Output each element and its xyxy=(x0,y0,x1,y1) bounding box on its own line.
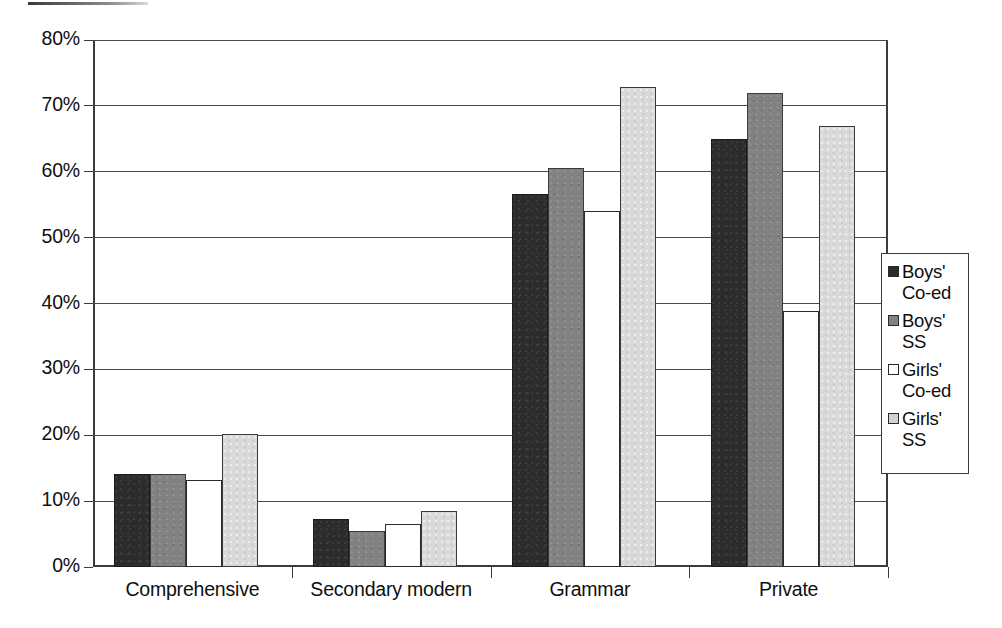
bar xyxy=(711,139,747,567)
gridline xyxy=(93,40,888,41)
bar xyxy=(349,531,385,567)
legend-item[interactable]: Boys' Co-ed xyxy=(888,261,968,303)
x-axis-tick xyxy=(491,567,492,578)
x-axis-category-label: Private xyxy=(649,578,929,601)
y-axis-tick-label: 0% xyxy=(0,554,80,577)
y-axis-tick xyxy=(84,40,93,41)
legend-item[interactable]: Girls' Co-ed xyxy=(888,359,968,401)
legend-item-label: Boys' Co-ed xyxy=(902,261,951,303)
chart-legend: Boys' Co-edBoys' SSGirls' Co-edGirls' SS xyxy=(881,253,969,474)
bar xyxy=(512,194,548,567)
y-axis-tick-label: 30% xyxy=(0,356,80,379)
y-axis-tick xyxy=(84,171,93,172)
y-axis-tick xyxy=(84,435,93,436)
y-axis-tick xyxy=(84,237,93,238)
y-axis-tick xyxy=(84,105,93,106)
bar xyxy=(584,211,620,567)
light-gray-swatch xyxy=(888,413,899,424)
y-axis-tick-label: 60% xyxy=(0,159,80,182)
y-axis-tick xyxy=(84,567,93,568)
y-axis-tick-label: 10% xyxy=(0,488,80,511)
y-axis-tick xyxy=(84,369,93,370)
y-axis-tick-label: 70% xyxy=(0,93,80,116)
y-axis-tick-label: 20% xyxy=(0,422,80,445)
bar xyxy=(620,87,656,567)
legend-item-label: Girls' SS xyxy=(902,408,942,450)
bar xyxy=(819,126,855,567)
y-axis-tick-label: 50% xyxy=(0,225,80,248)
bar xyxy=(421,511,457,567)
bar xyxy=(114,474,150,567)
y-axis-tick xyxy=(84,303,93,304)
dark-gray-swatch xyxy=(888,315,899,326)
bar xyxy=(186,480,222,567)
bar xyxy=(150,474,186,567)
bar xyxy=(313,519,349,567)
scan-artifact-line xyxy=(28,2,148,5)
bar xyxy=(222,434,258,567)
chart-figure: 0%10%20%30%40%50%60%70%80% Comprehensive… xyxy=(0,0,1002,628)
y-axis-tick xyxy=(84,501,93,502)
legend-item[interactable]: Girls' SS xyxy=(888,408,968,450)
legend-item-label: Boys' SS xyxy=(902,310,945,352)
legend-item-label: Girls' Co-ed xyxy=(902,359,951,401)
x-axis-tick xyxy=(888,567,889,578)
black-swatch xyxy=(888,266,899,277)
y-axis-tick-label: 80% xyxy=(0,27,80,50)
bar xyxy=(385,524,421,567)
bar xyxy=(783,311,819,567)
y-axis-tick-label: 40% xyxy=(0,291,80,314)
bar xyxy=(548,168,584,567)
bar xyxy=(747,93,783,567)
white-swatch xyxy=(888,364,899,375)
legend-item[interactable]: Boys' SS xyxy=(888,310,968,352)
x-axis-tick xyxy=(689,567,690,578)
x-axis-tick xyxy=(292,567,293,578)
